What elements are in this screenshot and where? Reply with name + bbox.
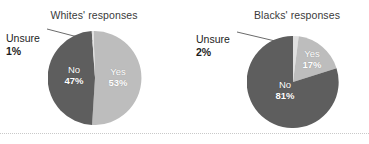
slice-label-value: 53% [101,77,135,88]
panel-title-blacks: Blacks' responses [205,9,369,21]
panel-title-whites: Whites' responses [2,9,186,21]
chart-panel-whites: Whites' responses Unsure 1% No 47% Yes [0,0,184,144]
callout-value: 2% [196,46,230,59]
slice-label-name: No [269,79,301,90]
callout-unsure-blacks: Unsure 2% [196,33,230,58]
slice-label-no-whites: No 47% [57,64,91,86]
callout-value: 1% [6,45,40,58]
slice-label-no-blacks: No 81% [269,79,301,101]
slice-label-name: Yes [296,48,328,59]
chart-panel-blacks: Blacks' responses Unsure 2% Yes 17% No [185,0,369,144]
callout-label: Unsure [6,32,40,45]
slice-label-value: 47% [57,75,91,86]
slice-label-yes-whites: Yes 53% [101,66,135,88]
slice-label-yes-blacks: Yes 17% [296,48,328,70]
callout-label: Unsure [196,33,230,46]
slice-label-name: Yes [101,66,135,77]
callout-unsure-whites: Unsure 1% [6,32,40,57]
slice-label-value: 81% [269,90,301,101]
footer-divider [0,133,369,134]
slice-label-name: No [57,64,91,75]
pie-chart-figure: Whites' responses Unsure 1% No 47% Yes [0,0,369,144]
slice-label-value: 17% [296,59,328,70]
